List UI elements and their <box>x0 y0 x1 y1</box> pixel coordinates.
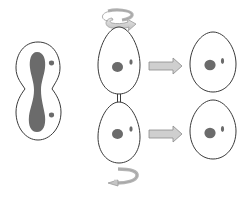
nucleus-icon <box>204 60 215 70</box>
centrosome-icon <box>129 59 132 65</box>
centrosome-icon <box>129 126 132 132</box>
result-cell-bottom <box>190 100 236 159</box>
rotation-arrow-bottom-icon <box>108 169 137 186</box>
centrosome-icon <box>221 58 224 64</box>
nucleus-icon <box>112 62 123 72</box>
daughter-cell-bottom <box>98 102 140 163</box>
arrow-right-bottom-icon <box>149 126 182 142</box>
dividing-cell <box>16 42 61 140</box>
daughter-cell-top-membrane <box>98 27 140 94</box>
result-cell-top <box>190 32 236 92</box>
cell-division-diagram: Asymmetric cell division with cell rotat… <box>0 0 247 199</box>
nucleus-icon <box>112 129 123 139</box>
nucleus-icon <box>204 128 215 138</box>
daughter-cell-top <box>98 27 140 94</box>
centrosome-top-icon <box>49 61 54 66</box>
centrosome-bottom-icon <box>49 113 54 118</box>
arrow-right-top-icon <box>149 58 182 74</box>
centrosome-icon <box>221 126 224 132</box>
